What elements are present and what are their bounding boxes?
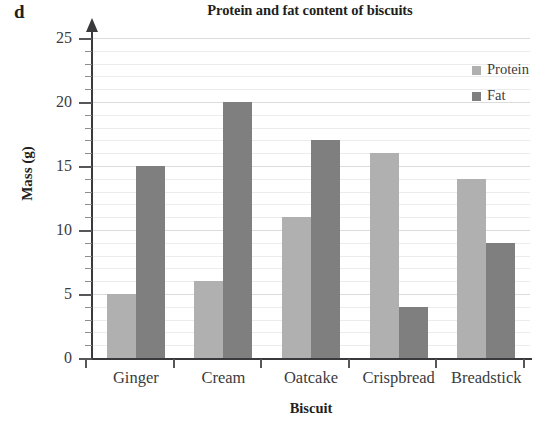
bar-fat-crispbread xyxy=(399,307,428,358)
y-tick-major xyxy=(79,166,92,168)
gridline-major xyxy=(92,38,530,39)
bar-protein-ginger xyxy=(107,294,136,358)
bar-protein-breadstick xyxy=(457,179,486,358)
category-label-oatcake: Oatcake xyxy=(267,370,355,387)
y-tick-label: 5 xyxy=(36,286,72,302)
y-axis-tick-labels: 0510152025 xyxy=(36,0,72,423)
y-tick-minor xyxy=(85,64,92,65)
legend-label: Protein xyxy=(487,62,529,77)
legend-swatch-protein xyxy=(472,66,481,75)
gridline-minor xyxy=(92,51,530,52)
bar-chart-figure: d Protein and fat content of biscuits 05… xyxy=(0,0,547,423)
y-tick-minor xyxy=(85,89,92,90)
y-tick-minor xyxy=(85,140,92,141)
y-tick-minor xyxy=(85,345,92,346)
y-axis-title: Mass (g) xyxy=(19,124,36,224)
gridline-minor xyxy=(92,128,530,129)
y-tick-minor xyxy=(85,179,92,180)
y-tick-minor xyxy=(85,320,92,321)
bar-fat-oatcake xyxy=(311,140,340,358)
y-tick-label: 0 xyxy=(36,350,72,366)
y-tick-major xyxy=(79,294,92,296)
legend-item: Fat xyxy=(472,88,546,114)
gridline-minor xyxy=(92,115,530,116)
y-tick-minor xyxy=(85,256,92,257)
plot-area xyxy=(92,38,530,358)
y-tick-minor xyxy=(85,192,92,193)
y-tick-major xyxy=(79,102,92,104)
category-label-breadstick: Breadstick xyxy=(442,370,530,387)
y-tick-minor xyxy=(85,128,92,129)
y-tick-minor xyxy=(85,307,92,308)
y-tick-minor xyxy=(85,204,92,205)
y-tick-minor xyxy=(85,281,92,282)
category-label-ginger: Ginger xyxy=(92,370,180,387)
gridline-minor xyxy=(92,89,530,90)
panel-letter: d xyxy=(14,2,25,21)
x-tick xyxy=(435,359,437,368)
bar-fat-breadstick xyxy=(486,243,515,358)
gridline-minor xyxy=(92,76,530,77)
y-tick-major xyxy=(79,230,92,232)
y-tick-minor xyxy=(85,115,92,116)
bar-protein-oatcake xyxy=(282,217,311,358)
legend-swatch-fat xyxy=(472,92,481,101)
x-tick xyxy=(523,359,525,368)
bar-protein-cream xyxy=(194,281,223,358)
x-tick xyxy=(348,359,350,368)
chart-title: Protein and fat content of biscuits xyxy=(90,2,530,19)
y-tick-minor xyxy=(85,268,92,269)
y-tick-minor xyxy=(85,332,92,333)
legend-label: Fat xyxy=(487,88,506,103)
y-axis-arrow-icon xyxy=(86,18,98,32)
legend: ProteinFat xyxy=(472,62,546,114)
category-label-crispbread: Crispbread xyxy=(355,370,443,387)
x-tick xyxy=(85,359,87,368)
y-tick-minor xyxy=(85,243,92,244)
gridline-minor xyxy=(92,64,530,65)
y-tick-label: 10 xyxy=(36,222,72,238)
x-axis-line xyxy=(85,358,532,360)
bar-fat-ginger xyxy=(136,166,165,358)
x-axis-title: Biscuit xyxy=(92,400,530,417)
y-tick-minor xyxy=(85,153,92,154)
y-tick-minor xyxy=(85,217,92,218)
category-label-cream: Cream xyxy=(180,370,268,387)
y-tick-label: 20 xyxy=(36,94,72,110)
y-tick-label: 15 xyxy=(36,158,72,174)
gridline-major xyxy=(92,102,530,103)
y-tick-major xyxy=(79,38,92,40)
x-tick xyxy=(173,359,175,368)
y-tick-minor xyxy=(85,76,92,77)
bar-fat-cream xyxy=(223,102,252,358)
legend-item: Protein xyxy=(472,62,546,88)
y-axis-line xyxy=(91,30,93,360)
bar-protein-crispbread xyxy=(370,153,399,358)
y-tick-minor xyxy=(85,51,92,52)
y-tick-label: 25 xyxy=(36,30,72,46)
x-tick xyxy=(260,359,262,368)
